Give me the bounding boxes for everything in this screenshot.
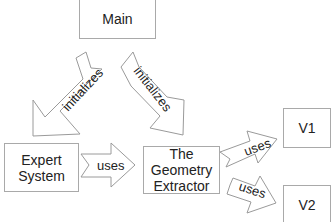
node-v1: V1	[283, 108, 331, 148]
node-v2: V2	[283, 185, 331, 222]
arrow-main-to-geometry-extractor: initializes	[121, 52, 184, 135]
node-expert-system: Expert System	[4, 143, 79, 192]
arrow-geometry-extractor-to-v1: uses	[220, 131, 277, 167]
node-v2-label: V2	[298, 197, 315, 213]
arrow-expert-system-to-geometry-extractor: uses	[81, 143, 135, 187]
node-geometry-extractor: The Geometry Extractor	[143, 146, 220, 194]
arrow-main-to-expert-system: initializes	[33, 52, 107, 136]
node-main: Main	[79, 0, 156, 39]
node-v1-label: V1	[298, 120, 315, 136]
node-main-label: Main	[102, 11, 132, 27]
node-geometry-extractor-label: The Geometry Extractor	[151, 146, 212, 194]
node-expert-system-label: Expert System	[18, 152, 65, 184]
arrow-geometry-extractor-to-v2: uses	[227, 176, 276, 213]
arrow-label-uses-horizontal: uses	[97, 158, 125, 173]
diagram-canvas: initializes initializes uses uses uses M…	[0, 0, 334, 222]
